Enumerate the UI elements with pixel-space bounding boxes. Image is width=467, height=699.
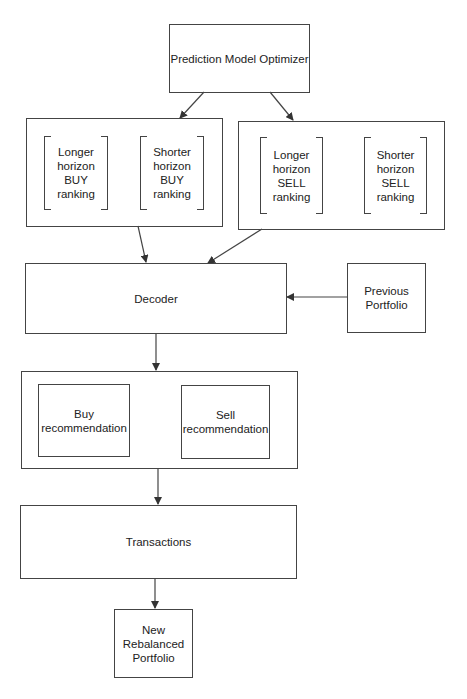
node-label: Previous Portfolio <box>364 284 409 312</box>
decoder-node: Decoder <box>25 263 287 334</box>
node-label: Shorter horizon BUY ranking <box>153 145 191 201</box>
buy-rankings-group: Longer horizon BUY ranking Shorter horiz… <box>26 118 223 227</box>
node-label: Sell recommendation <box>183 408 269 436</box>
recommendations-group: Buy recommendation Sell recommendation <box>21 371 298 469</box>
longer-horizon-sell-ranking: Longer horizon SELL ranking <box>260 137 323 214</box>
node-label: Prediction Model Optimizer <box>170 52 308 66</box>
transactions-node: Transactions <box>20 505 297 579</box>
buy-recommendation-node: Buy recommendation <box>38 384 130 457</box>
node-label: Longer horizon SELL ranking <box>273 148 311 204</box>
sell-rankings-group: Longer horizon SELL ranking Shorter hori… <box>238 121 445 230</box>
arrow-sell-to-decoder <box>208 229 262 263</box>
new-rebalanced-portfolio-node: New Rebalanced Portfolio <box>114 609 193 678</box>
node-label: Buy recommendation <box>41 407 127 435</box>
arrow-buy-to-decoder <box>138 226 146 262</box>
previous-portfolio-node: Previous Portfolio <box>347 263 426 333</box>
sell-recommendation-node: Sell recommendation <box>181 385 270 459</box>
node-label: Longer horizon BUY ranking <box>57 145 95 201</box>
node-label: Shorter horizon SELL ranking <box>377 148 415 204</box>
shorter-horizon-sell-ranking: Shorter horizon SELL ranking <box>364 137 427 214</box>
arrow-optimizer-to-buy <box>180 92 204 118</box>
arrow-optimizer-to-sell <box>270 92 293 120</box>
connector-arrows <box>0 0 467 699</box>
shorter-horizon-buy-ranking: Shorter horizon BUY ranking <box>140 136 204 210</box>
node-label: New Rebalanced Portfolio <box>123 623 184 665</box>
prediction-model-optimizer-node: Prediction Model Optimizer <box>169 24 310 93</box>
node-label: Decoder <box>134 292 177 306</box>
longer-horizon-buy-ranking: Longer horizon BUY ranking <box>44 136 108 210</box>
node-label: Transactions <box>126 535 191 549</box>
